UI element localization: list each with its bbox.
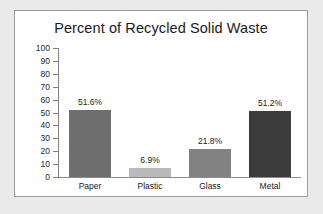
x-axis-category-label: Metal <box>260 181 281 191</box>
y-tick-label: 60 <box>41 95 50 105</box>
y-tick-mark <box>53 48 58 49</box>
y-tick-mark <box>53 74 58 75</box>
chart-title: Percent of Recycled Solid Waste <box>15 20 307 36</box>
y-tick-mark <box>53 177 58 178</box>
bar-value-label: 21.8% <box>198 136 222 146</box>
y-tick-mark <box>53 125 58 126</box>
y-tick-mark <box>53 61 58 62</box>
y-tick-label: 80 <box>41 69 50 79</box>
y-tick-mark <box>53 100 58 101</box>
bar: 6.9% <box>129 168 171 177</box>
y-tick-label: 50 <box>41 108 50 118</box>
x-axis-category-label: Plastic <box>137 181 162 191</box>
y-tick-label: 30 <box>41 133 50 143</box>
y-tick-label: 100 <box>36 43 50 53</box>
y-tick-label: 90 <box>41 56 50 66</box>
y-tick-mark <box>53 151 58 152</box>
y-tick-label: 40 <box>41 120 50 130</box>
y-tick-mark <box>53 164 58 165</box>
x-axis-category-label: Glass <box>199 181 221 191</box>
chart-screenshot: Percent of Recycled Solid Waste 10090807… <box>0 0 323 214</box>
plot-area: 1009080706050403020100 51.6%6.9%21.8%51.… <box>58 48 298 177</box>
y-tick-label: 0 <box>45 172 50 182</box>
x-axis-line <box>58 177 301 178</box>
bar: 51.2% <box>249 111 291 177</box>
y-tick-mark <box>53 113 58 114</box>
bar-value-label: 51.2% <box>258 98 282 108</box>
bar: 21.8% <box>189 149 231 177</box>
y-tick-mark <box>53 87 58 88</box>
bar-value-label: 51.6% <box>78 97 102 107</box>
chart-panel: Percent of Recycled Solid Waste 10090807… <box>14 10 308 197</box>
bar: 51.6% <box>69 110 111 177</box>
y-tick-mark <box>53 138 58 139</box>
bar-value-label: 6.9% <box>140 155 159 165</box>
y-axis-line <box>58 48 59 177</box>
y-tick-label: 20 <box>41 146 50 156</box>
y-tick-label: 70 <box>41 82 50 92</box>
y-tick-label: 10 <box>41 159 50 169</box>
x-axis-category-label: Paper <box>79 181 102 191</box>
